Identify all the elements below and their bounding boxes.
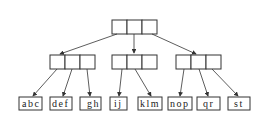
internal-node-right bbox=[176, 55, 221, 69]
root-node bbox=[112, 20, 157, 34]
svg-text:klm: klm bbox=[140, 98, 160, 109]
svg-text:nop: nop bbox=[170, 98, 190, 109]
leaf-edges bbox=[33, 69, 238, 96]
svg-text:abc: abc bbox=[22, 98, 40, 109]
svg-text:gh: gh bbox=[87, 98, 100, 109]
leaf-abc: abc bbox=[19, 97, 42, 110]
svg-text:def: def bbox=[52, 98, 69, 109]
leaf-ij: ij bbox=[110, 97, 127, 110]
root-edges bbox=[60, 34, 196, 54]
leaf-st: st bbox=[228, 97, 250, 110]
svg-text:st: st bbox=[234, 98, 244, 109]
btree-diagram: abc def gh ij klm nop qr st bbox=[0, 0, 266, 132]
svg-text:qr: qr bbox=[203, 98, 214, 109]
leaf-klm: klm bbox=[138, 97, 162, 110]
svg-text:ij: ij bbox=[114, 98, 123, 109]
leaf-def: def bbox=[50, 97, 72, 110]
leaf-qr: qr bbox=[197, 97, 220, 110]
internal-node-middle bbox=[112, 55, 157, 69]
leaf-nop: nop bbox=[168, 97, 192, 110]
leaf-gh: gh bbox=[80, 97, 101, 110]
internal-node-left bbox=[50, 55, 95, 69]
